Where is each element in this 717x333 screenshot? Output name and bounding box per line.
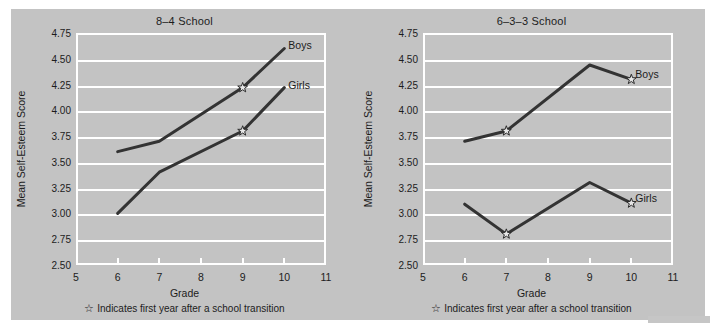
data-line-girls <box>118 88 285 214</box>
x-tick-mark <box>505 258 507 265</box>
y-tick-label: 3.25 <box>378 182 418 193</box>
x-tick-mark <box>589 258 591 265</box>
x-axis-label: Grade <box>11 287 358 299</box>
transition-note-text: Indicates first year after a school tran… <box>444 303 631 314</box>
y-tick-label: 4.50 <box>31 53 71 64</box>
x-tick-mark <box>547 258 549 265</box>
y-tick-label: 3.50 <box>378 156 418 167</box>
x-tick-label: 11 <box>668 271 679 283</box>
x-tick-label: 8 <box>198 271 204 283</box>
transition-note: ☆ Indicates first year after a school tr… <box>358 302 705 315</box>
x-tick-mark <box>464 258 466 265</box>
x-tick-mark <box>117 258 119 265</box>
x-tick-mark <box>200 258 202 265</box>
x-tick-mark <box>242 258 244 265</box>
x-tick-label: 9 <box>587 271 593 283</box>
transition-note: ☆ Indicates first year after a school tr… <box>11 302 358 315</box>
x-tick-label: 11 <box>321 271 332 283</box>
y-tick-label: 3.50 <box>31 156 71 167</box>
y-tick-label: 4.75 <box>378 28 418 39</box>
y-tick-label: 2.75 <box>378 234 418 245</box>
data-line-girls <box>465 183 632 235</box>
x-tick-label: 5 <box>73 271 79 283</box>
y-tick-label: 3.00 <box>31 208 71 219</box>
x-tick-label: 6 <box>462 271 468 283</box>
y-tick-label: 4.00 <box>31 105 71 116</box>
chart-panel-8-4: 8–4 School Mean Self-Esteem Score Grade … <box>11 9 358 320</box>
x-tick-mark <box>630 258 632 265</box>
y-tick-label: 4.25 <box>378 79 418 90</box>
figure-root: 8–4 School Mean Self-Esteem Score Grade … <box>0 0 717 333</box>
series-label-girls: Girls <box>288 79 310 91</box>
x-axis-label: Grade <box>358 287 705 299</box>
series-label-boys: Boys <box>288 39 311 51</box>
x-tick-label: 9 <box>240 271 246 283</box>
star-icon: ☆ <box>84 302 94 314</box>
x-tick-mark <box>283 258 285 265</box>
y-tick-label: 2.50 <box>31 260 71 271</box>
y-tick-label: 4.75 <box>31 28 71 39</box>
data-line-boys <box>465 65 632 141</box>
x-tick-label: 5 <box>420 271 426 283</box>
y-tick-label: 4.25 <box>31 79 71 90</box>
x-tick-label: 8 <box>545 271 551 283</box>
y-tick-label: 2.75 <box>31 234 71 245</box>
figure-panel: 8–4 School Mean Self-Esteem Score Grade … <box>11 9 705 320</box>
x-tick-label: 6 <box>115 271 121 283</box>
series-label-girls: Girls <box>635 192 657 204</box>
y-tick-label: 4.50 <box>378 53 418 64</box>
series-label-boys: Boys <box>635 68 658 80</box>
scan-artifact <box>648 316 710 323</box>
chart-panel-6-3-3: 6–3–3 School Mean Self-Esteem Score Grad… <box>358 9 705 320</box>
y-tick-label: 4.00 <box>378 105 418 116</box>
data-line-boys <box>118 49 285 152</box>
transition-note-text: Indicates first year after a school tran… <box>97 303 284 314</box>
x-tick-label: 10 <box>625 271 637 283</box>
y-tick-label: 3.75 <box>31 131 71 142</box>
star-icon: ☆ <box>431 302 441 314</box>
y-tick-label: 3.75 <box>378 131 418 142</box>
y-tick-label: 3.25 <box>31 182 71 193</box>
x-tick-mark <box>158 258 160 265</box>
y-tick-label: 2.50 <box>378 260 418 271</box>
y-tick-label: 3.00 <box>378 208 418 219</box>
x-tick-label: 10 <box>278 271 290 283</box>
x-tick-label: 7 <box>156 271 162 283</box>
x-tick-label: 7 <box>503 271 509 283</box>
